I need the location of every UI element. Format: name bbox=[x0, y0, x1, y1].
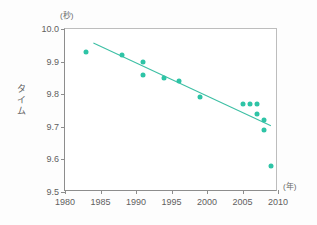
data-point bbox=[254, 101, 259, 106]
x-tick-label: 1990 bbox=[120, 198, 152, 207]
plot-area: 9.59.69.79.89.910.0198019851990199520002… bbox=[64, 28, 277, 191]
chart-figure: (秒) (年) タ イ ム 9.59.69.79.89.910.01980198… bbox=[0, 0, 317, 225]
data-point bbox=[197, 95, 202, 100]
y-axis-unit-label: (秒) bbox=[60, 9, 73, 20]
y-tick-mark bbox=[61, 62, 65, 63]
x-tick-mark bbox=[172, 190, 173, 194]
data-point bbox=[261, 128, 266, 133]
data-point bbox=[254, 111, 259, 116]
x-tick-mark bbox=[278, 190, 279, 194]
data-point bbox=[268, 163, 273, 168]
y-tick-label: 10.0 bbox=[29, 25, 59, 34]
plot-inner bbox=[65, 29, 276, 190]
x-tick-label: 2000 bbox=[191, 198, 223, 207]
data-point bbox=[240, 101, 245, 106]
y-tick-label: 9.5 bbox=[29, 188, 59, 197]
data-point bbox=[119, 53, 124, 58]
data-point bbox=[247, 101, 252, 106]
x-tick-label: 2010 bbox=[262, 198, 294, 207]
y-tick-label: 9.6 bbox=[29, 155, 59, 164]
y-tick-label: 9.7 bbox=[29, 123, 59, 132]
x-tick-mark bbox=[207, 190, 208, 194]
x-axis-unit-label: (年) bbox=[283, 180, 296, 191]
data-point bbox=[84, 49, 89, 54]
y-axis-title-char-2: イ bbox=[14, 95, 28, 106]
y-tick-label: 9.8 bbox=[29, 90, 59, 99]
x-tick-mark bbox=[136, 190, 137, 194]
data-point bbox=[141, 72, 146, 77]
x-tick-mark bbox=[65, 190, 66, 194]
trend-line-layer bbox=[65, 29, 278, 192]
x-tick-mark bbox=[101, 190, 102, 194]
y-tick-mark bbox=[61, 94, 65, 95]
x-tick-mark bbox=[243, 190, 244, 194]
y-tick-mark bbox=[61, 159, 65, 160]
x-tick-label: 1995 bbox=[156, 198, 188, 207]
data-point bbox=[162, 75, 167, 80]
data-point bbox=[176, 79, 181, 84]
y-axis-title-char-1: タ bbox=[14, 84, 28, 95]
x-tick-label: 1980 bbox=[49, 198, 81, 207]
y-tick-label: 9.9 bbox=[29, 58, 59, 67]
data-point bbox=[141, 59, 146, 64]
y-tick-mark bbox=[61, 29, 65, 30]
y-tick-mark bbox=[61, 127, 65, 128]
data-point bbox=[261, 118, 266, 123]
y-axis-title-char-3: ム bbox=[14, 106, 28, 117]
y-axis-title: タ イ ム bbox=[14, 84, 28, 117]
x-tick-label: 2005 bbox=[227, 198, 259, 207]
x-tick-label: 1985 bbox=[85, 198, 117, 207]
